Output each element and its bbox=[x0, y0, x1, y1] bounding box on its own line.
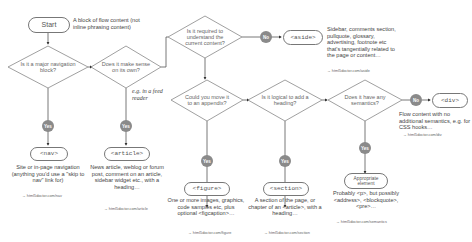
question-semantics: Does it have any semantics? bbox=[340, 94, 390, 106]
question-appendix: Could you move it to an appendix? bbox=[182, 94, 232, 106]
start-node: Start bbox=[28, 17, 70, 33]
article-desc: News article, weblog or forum post, comm… bbox=[88, 164, 166, 190]
question-heading: Is it logical to add a heading? bbox=[260, 94, 310, 106]
nav-element: <nav> bbox=[30, 147, 68, 161]
figure-link[interactable]: → html5doctor.com/figure bbox=[188, 231, 231, 235]
yes-badge: Yes bbox=[120, 120, 132, 132]
appropriate-desc: Probably <p>, but possibly <address>, <b… bbox=[324, 190, 408, 210]
question-own: Does it make sense on its own? bbox=[100, 61, 152, 73]
div-desc: Flow content with no additional semantic… bbox=[399, 111, 471, 131]
yes-badge: Yes bbox=[359, 142, 371, 154]
article-element: <article> bbox=[104, 147, 150, 161]
aside-link[interactable]: → html5doctor.com/aside bbox=[327, 69, 370, 73]
section-element: <section> bbox=[263, 182, 309, 196]
article-link[interactable]: → html5doctor.com/article bbox=[104, 207, 148, 211]
question-required: Is it required to understand the current… bbox=[180, 28, 230, 46]
div-link[interactable]: → html5doctor.com/div bbox=[403, 133, 442, 137]
figure-element: <figure> bbox=[184, 182, 230, 196]
figure-desc: One or more images, graphics, code sampl… bbox=[167, 197, 245, 217]
aside-desc: Sidebar, comments section, pullquote, gl… bbox=[327, 26, 401, 59]
question-nav: Is it a major navigation block? bbox=[20, 61, 76, 73]
appropriate-element: Appropriate element bbox=[344, 173, 388, 189]
nav-link[interactable]: → html5doctor.com/nav bbox=[22, 194, 62, 198]
yes-badge: Yes bbox=[201, 155, 213, 167]
nav-desc: Site or in-page navigation (anything you… bbox=[6, 164, 90, 184]
no-badge: No bbox=[410, 94, 422, 106]
start-note: A block of flow content (not inline phra… bbox=[73, 17, 153, 30]
div-element: <div> bbox=[432, 93, 468, 108]
yes-badge: Yes bbox=[42, 120, 54, 132]
section-link[interactable]: → html5doctor.com/section bbox=[264, 231, 310, 235]
feed-reader-note: e.g. in a feed reader bbox=[132, 88, 178, 102]
no-badge: No bbox=[260, 31, 272, 43]
semantics-link[interactable]: → html5doctor.com/semantics bbox=[336, 220, 387, 224]
section-desc: A section of the page, or chapter of an … bbox=[246, 197, 324, 217]
aside-element: <aside> bbox=[283, 30, 323, 45]
yes-badge: Yes bbox=[279, 155, 291, 167]
